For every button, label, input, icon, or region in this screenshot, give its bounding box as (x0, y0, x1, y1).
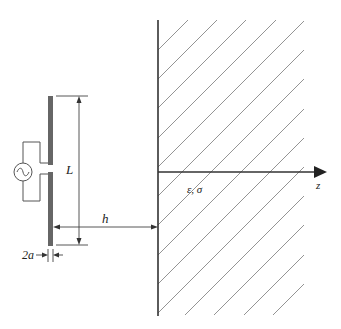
z-axis-arrow (158, 166, 327, 178)
ac-voltage-source-icon (14, 163, 32, 181)
length-label: L (66, 163, 73, 176)
diameter-label: 2a (22, 249, 34, 261)
medium-parameters-label: ε, σ (187, 184, 202, 195)
dipole-antenna (48, 96, 53, 246)
half-space-hatching (158, 20, 305, 315)
dipole-over-half-space-diagram (0, 0, 341, 329)
diameter-dimension (36, 249, 63, 262)
height-label: h (102, 212, 109, 225)
z-axis-label: z (316, 180, 320, 191)
